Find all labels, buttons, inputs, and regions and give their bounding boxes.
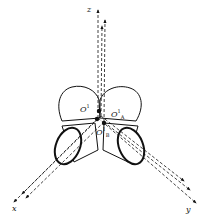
upper-cylinders [59,86,141,121]
point-origin [97,109,101,113]
diagram: z x y O1 O1A O1B [0,0,206,220]
x-axis-label: x [12,205,17,213]
point-b-label: O1B [96,127,109,138]
point-a-label: O1A [111,109,124,120]
point-b [102,121,106,125]
point-a [95,117,99,121]
y-axis-label: y [186,206,191,214]
diagram-canvas [0,0,206,220]
origin-label: O1 [80,104,90,114]
z-axis-label: z [87,6,91,14]
